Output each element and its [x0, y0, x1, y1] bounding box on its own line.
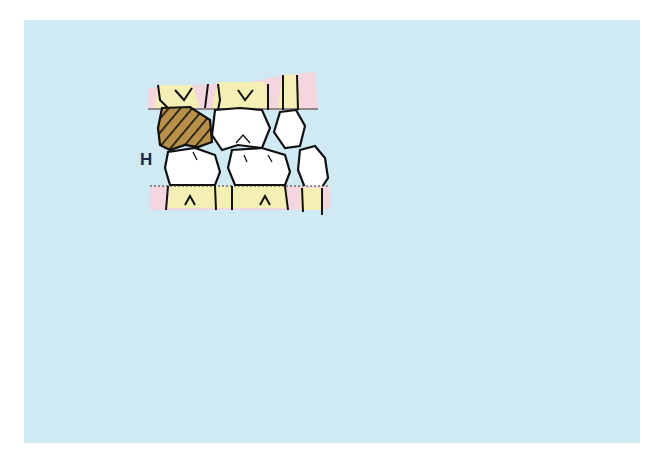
top-posterior-teeth [148, 72, 330, 215]
tooth-label-h: H [140, 150, 152, 170]
dental-diagram [0, 0, 655, 457]
